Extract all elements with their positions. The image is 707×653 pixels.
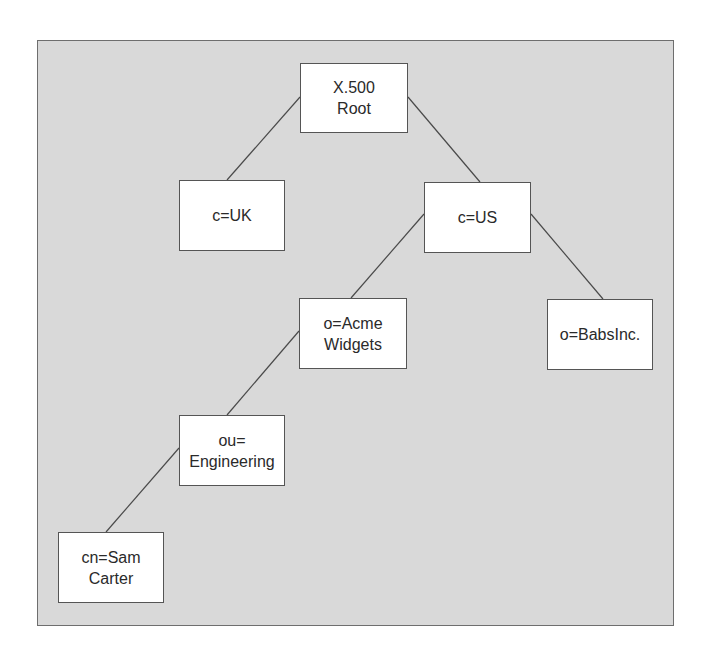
node-label-line: Carter xyxy=(89,568,133,589)
node-x500-root: X.500 Root xyxy=(300,63,408,133)
node-label-line: o=Acme xyxy=(323,313,382,334)
node-label-line: ou= xyxy=(218,430,245,451)
node-org-babsinc: o=BabsInc. xyxy=(547,299,653,370)
node-label-line: o=BabsInc. xyxy=(560,324,641,345)
node-label-line: c=US xyxy=(458,207,498,228)
node-label-line: Engineering xyxy=(189,451,274,472)
node-label-line: Root xyxy=(337,98,371,119)
node-label-line: c=UK xyxy=(212,205,252,226)
node-country-us: c=US xyxy=(424,182,531,253)
node-label-line: Widgets xyxy=(324,334,382,355)
node-label-line: cn=Sam xyxy=(81,547,140,568)
node-label-line: X.500 xyxy=(333,77,375,98)
node-org-acme-widgets: o=Acme Widgets xyxy=(299,298,407,369)
node-ou-engineering: ou= Engineering xyxy=(179,415,285,486)
node-cn-sam-carter: cn=Sam Carter xyxy=(58,532,164,603)
node-country-uk: c=UK xyxy=(179,180,285,251)
